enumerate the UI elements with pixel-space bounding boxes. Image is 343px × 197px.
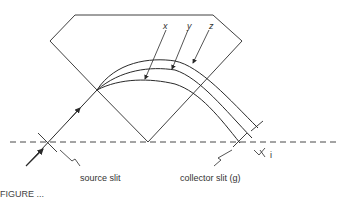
label-x: x xyxy=(163,22,168,31)
label-z: z xyxy=(209,22,214,31)
diagram-canvas xyxy=(0,0,343,197)
leader-x xyxy=(145,30,166,79)
source-slit-leader xyxy=(60,150,80,166)
trajectory-y xyxy=(97,69,252,138)
label-i: i xyxy=(270,151,272,160)
trajectory-z xyxy=(97,60,258,128)
beam-arrow xyxy=(70,108,80,119)
collector-slit xyxy=(233,133,247,147)
label-y: y xyxy=(187,22,192,31)
collector-slit-leader xyxy=(214,150,232,166)
magnet-outline xyxy=(50,15,242,142)
label-collector-slit: collector slit (g) xyxy=(180,174,241,183)
leader-y xyxy=(172,30,188,69)
figure-caption: FIGURE ... xyxy=(0,189,343,197)
leader-z xyxy=(193,30,209,63)
label-source-slit: source slit xyxy=(80,174,121,183)
i-bracket xyxy=(254,148,265,155)
incoming-arrow xyxy=(26,149,43,166)
